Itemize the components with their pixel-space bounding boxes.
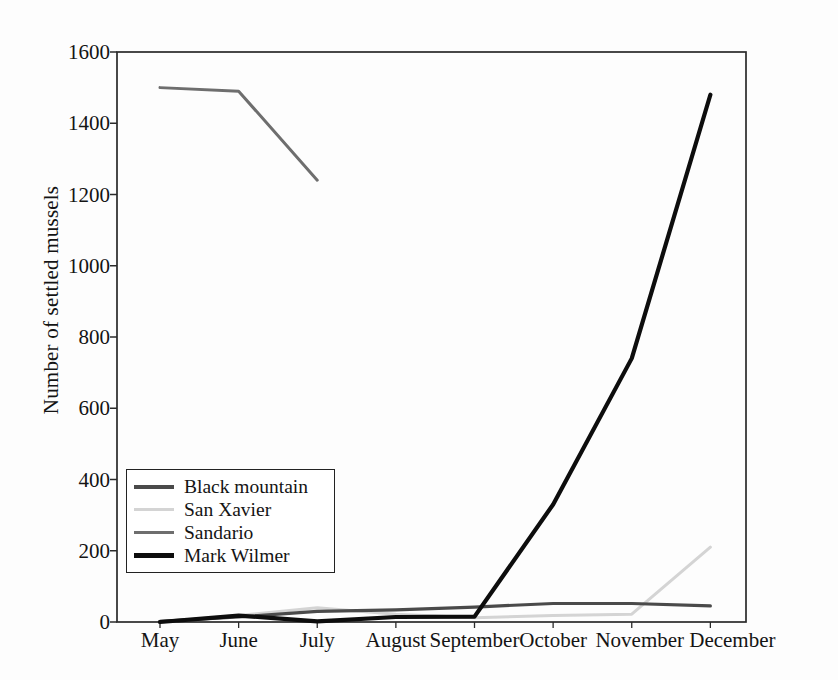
- x-axis-tick-labels: MayJuneJulyAugustSeptemberOctoberNovembe…: [0, 628, 838, 668]
- legend-item-label: San Xavier: [184, 500, 271, 520]
- legend-item[interactable]: Mark Wilmer: [134, 544, 326, 567]
- x-tick-label: June: [219, 628, 258, 653]
- legend-item-label: Mark Wilmer: [184, 546, 290, 566]
- line-chart: Number of settled mussels 16001400120010…: [0, 0, 838, 680]
- legend-item[interactable]: Black mountain: [134, 475, 326, 498]
- legend-item[interactable]: San Xavier: [134, 498, 326, 521]
- legend-swatch-icon: [134, 485, 174, 489]
- plot-area: [0, 0, 838, 680]
- legend: Black mountainSan XavierSandarioMark Wil…: [126, 469, 335, 573]
- x-tick-label: October: [519, 628, 587, 653]
- x-tick-label: July: [300, 628, 335, 653]
- series-line-sandario: [160, 88, 317, 181]
- x-tick-label: September: [430, 628, 520, 653]
- x-tick-label: November: [595, 628, 684, 653]
- legend-swatch-icon: [134, 531, 174, 535]
- legend-item[interactable]: Sandario: [134, 521, 326, 544]
- legend-item-label: Sandario: [184, 523, 253, 543]
- x-tick-label: August: [366, 628, 427, 653]
- x-tick-label: December: [689, 628, 775, 653]
- legend-swatch-icon: [134, 508, 174, 511]
- x-tick-label: May: [141, 628, 180, 653]
- legend-swatch-icon: [134, 553, 174, 558]
- legend-item-label: Black mountain: [184, 477, 308, 497]
